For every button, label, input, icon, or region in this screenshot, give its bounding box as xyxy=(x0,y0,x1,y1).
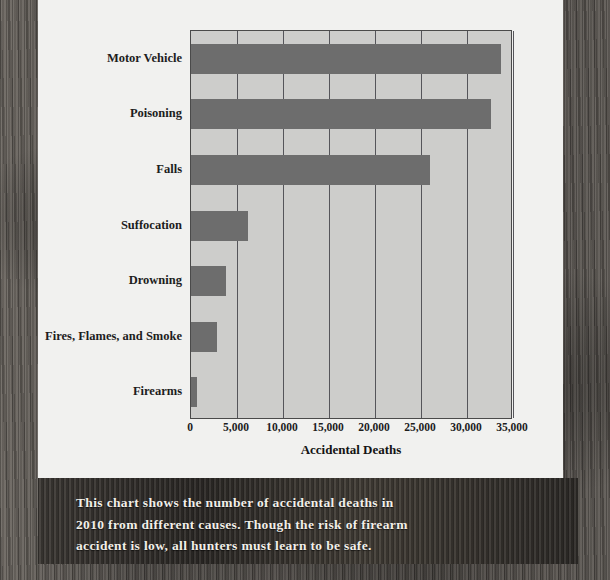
caption-band: This chart shows the number of accidenta… xyxy=(38,478,578,564)
x-tick-label: 0 xyxy=(187,421,193,433)
bars-layer xyxy=(191,31,511,418)
bar xyxy=(191,44,501,74)
x-tick-label: 10,000 xyxy=(266,421,298,433)
chart-panel: Motor VehiclePoisoningFallsSuffocationDr… xyxy=(38,0,563,478)
x-tick-label: 20,000 xyxy=(358,421,390,433)
category-label: Poisoning xyxy=(38,106,182,120)
category-label: Firearms xyxy=(38,384,182,398)
category-label: Fires, Flames, and Smoke xyxy=(38,329,182,343)
x-axis-title: Accidental Deaths xyxy=(190,442,512,458)
bar xyxy=(191,377,197,407)
bar xyxy=(191,211,248,241)
category-label: Drowning xyxy=(38,273,182,287)
bar xyxy=(191,266,226,296)
caption-line: accident is low, all hunters must learn … xyxy=(76,535,558,557)
category-label: Suffocation xyxy=(38,218,182,232)
x-axis-tick-labels: 05,00010,00015,00020,00025,00030,00035,0… xyxy=(190,421,512,441)
x-tick-label: 35,000 xyxy=(496,421,528,433)
x-tick-label: 5,000 xyxy=(223,421,249,433)
bar xyxy=(191,155,430,185)
plot-area xyxy=(190,30,512,419)
category-label: Falls xyxy=(38,162,182,176)
chart-page: Motor VehiclePoisoningFallsSuffocationDr… xyxy=(0,0,610,580)
gridline xyxy=(513,31,514,418)
x-tick-label: 15,000 xyxy=(312,421,344,433)
plot-wrapper: Motor VehiclePoisoningFallsSuffocationDr… xyxy=(38,0,563,478)
category-label: Motor Vehicle xyxy=(38,51,182,65)
x-tick-label: 25,000 xyxy=(404,421,436,433)
category-axis-labels: Motor VehiclePoisoningFallsSuffocationDr… xyxy=(38,30,182,419)
caption-text: This chart shows the number of accidenta… xyxy=(76,492,558,557)
x-tick-label: 30,000 xyxy=(450,421,482,433)
caption-line: 2010 from different causes. Though the r… xyxy=(76,514,558,536)
caption-line: This chart shows the number of accidenta… xyxy=(76,492,558,514)
bar xyxy=(191,99,491,129)
bar xyxy=(191,322,217,352)
